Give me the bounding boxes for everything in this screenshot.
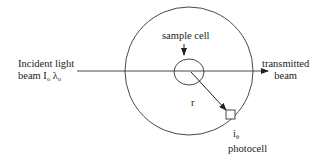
sample-cell-label: sample cell — [162, 30, 210, 42]
transmitted-beam-label: transmitted beam — [262, 58, 309, 82]
lambda-subscript: o — [58, 75, 61, 82]
transmitted-label-line2: beam — [262, 70, 309, 82]
photocell-text: photocell — [228, 143, 267, 155]
incident-label-line1: Incident light — [18, 58, 74, 70]
incident-beam-text: beam I — [18, 70, 47, 81]
incident-beam-label: Incident light beam Io λo — [18, 58, 74, 85]
incident-label-line2: beam Io λo — [18, 70, 74, 85]
photocell-label: iθ photocell — [228, 128, 267, 155]
light-scattering-diagram: Incident light beam Io λo sample cell tr… — [0, 0, 327, 166]
scattered-ray-arrow — [191, 72, 226, 110]
intensity-subscript: o — [47, 75, 50, 82]
scattered-intensity-label: iθ — [228, 128, 267, 143]
photocell-box — [226, 110, 235, 119]
radius-label: r — [191, 97, 195, 109]
transmitted-label-line1: transmitted — [262, 58, 309, 70]
theta-subscript: θ — [236, 133, 239, 140]
